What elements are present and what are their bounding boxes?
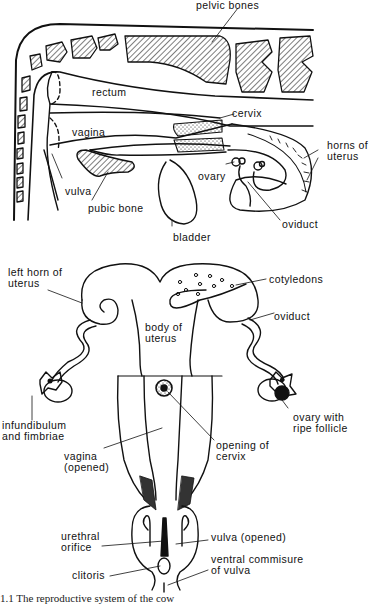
label-ovary-with-ripe-follicle: ovary with ripe follicle [293, 412, 348, 434]
label-vulva: vulva [65, 186, 92, 197]
label-ovary: ovary [198, 171, 226, 182]
label-pubic-bone: pubic bone [88, 203, 143, 214]
lateral-view [14, 8, 318, 226]
label-ventral-commisure-of-vulva: ventral commisure of vulva [211, 554, 304, 576]
label-rectum: rectum [92, 87, 127, 98]
label-cervix: cervix [232, 108, 262, 119]
label-clitoris: clitoris [72, 570, 105, 581]
label-cotyledons: cotyledons [269, 274, 323, 285]
label-oviduct-dorsal: oviduct [274, 311, 310, 322]
label-urethral-orifice: urethral orifice [61, 531, 100, 553]
label-bladder: bladder [173, 232, 211, 243]
label-vulva-opened: vulva (opened) [211, 532, 286, 543]
label-infundibulum-and-fimbriae: infundibulum and fimbriae [2, 420, 66, 442]
label-vagina: vagina [72, 127, 105, 138]
label-pelvic-bones: pelvic bones [196, 0, 259, 11]
label-left-horn-of-uterus: left horn of uterus [8, 267, 62, 289]
label-horns-of-uterus: horns of uterus [327, 140, 368, 162]
label-opening-of-cervix: opening of cervix [216, 440, 269, 462]
figure-caption: 1.1 The reproductive system of the cow [0, 592, 174, 604]
label-body-of-uterus: body of uterus [145, 322, 182, 344]
label-oviduct-lateral: oviduct [282, 219, 318, 230]
label-vagina-opened: vagina (opened) [64, 451, 109, 473]
